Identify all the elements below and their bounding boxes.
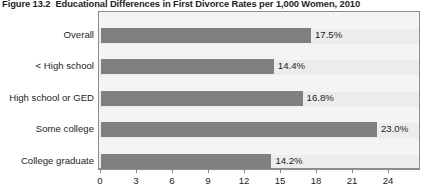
chart-value-label: 16.8% [307, 92, 334, 103]
x-axis-tick-label: 12 [229, 175, 259, 187]
chart-category-label: < High school [0, 60, 94, 71]
chart-value-label: 23.0% [381, 123, 408, 134]
chart-bar [101, 59, 274, 74]
chart-plot-area [98, 11, 420, 169]
x-axis-tick-label: 6 [157, 175, 187, 187]
x-axis-tick [136, 169, 137, 173]
x-axis-tick [316, 169, 317, 173]
x-axis-line [98, 169, 420, 170]
chart-category-label: College graduate [0, 155, 94, 166]
x-axis-tick [352, 169, 353, 173]
chart-bar [101, 122, 377, 137]
x-axis-tick-label: 3 [121, 175, 151, 187]
chart-value-label: 14.4% [278, 60, 305, 71]
chart-bar [101, 91, 303, 106]
x-axis-tick [280, 169, 281, 173]
chart-row-band [99, 75, 419, 92]
figure-title: Figure 13.2Educational Differences in Fi… [2, 0, 436, 11]
chart-row-band [99, 12, 419, 29]
x-axis-tick [172, 169, 173, 173]
chart-category-label: Overall [0, 29, 94, 40]
x-axis-tick-label: 9 [193, 175, 223, 187]
chart-bar [101, 28, 311, 43]
x-axis-tick-label: 18 [301, 175, 331, 187]
x-axis-tick [244, 169, 245, 173]
chart-row-band [99, 44, 419, 61]
figure-number: Figure 13.2 [2, 0, 50, 9]
x-axis-tick [100, 169, 101, 173]
chart-value-label: 14.2% [275, 155, 302, 166]
chart-value-label: 17.5% [315, 29, 342, 40]
x-axis-tick [208, 169, 209, 173]
chart-category-label: High school or GED [0, 92, 94, 103]
figure-container: Figure 13.2Educational Differences in Fi… [0, 0, 436, 194]
chart-category-label: Some college [0, 123, 94, 134]
chart-plot-inner [99, 12, 419, 168]
x-axis-tick [388, 169, 389, 173]
x-axis-tick-label: 21 [337, 175, 367, 187]
x-axis-tick-label: 0 [85, 175, 115, 187]
x-axis-tick-label: 24 [373, 175, 403, 187]
chart-row-band [99, 138, 419, 155]
chart-row-band [99, 107, 419, 124]
figure-title-text: Educational Differences in First Divorce… [55, 0, 360, 9]
x-axis-tick-label: 15 [265, 175, 295, 187]
chart-bar [101, 154, 271, 169]
